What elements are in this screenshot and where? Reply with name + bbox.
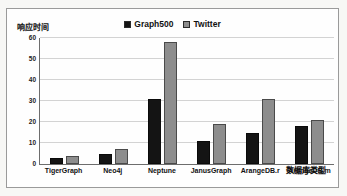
legend-item-twitter: Twitter xyxy=(183,19,220,29)
bar-series-container xyxy=(40,38,334,164)
y-axis-tick-label: 30 xyxy=(29,97,36,104)
bar-twitter-neptune xyxy=(164,42,177,164)
plot-area-wrapper: 0102030405060 xyxy=(39,38,334,165)
bar-graph500-arangedb-m xyxy=(295,126,308,164)
plot-area: 0102030405060 xyxy=(39,38,334,165)
bar-twitter-janusgraph xyxy=(213,124,226,164)
legend-label: Graph500 xyxy=(134,19,173,29)
bar-group xyxy=(285,38,334,164)
y-axis-title: 响应时间 xyxy=(17,21,49,32)
bar-twitter-arangedb-r xyxy=(262,99,275,164)
bar-graph500-tigergraph xyxy=(50,158,63,164)
chart-legend: Graph500Twitter xyxy=(7,19,338,29)
x-axis-tick-label: JanusGraph xyxy=(187,167,236,174)
x-axis-tick-label: Neo4j xyxy=(88,167,137,174)
legend-swatch-icon xyxy=(183,21,190,28)
y-axis-tick-label: 40 xyxy=(29,76,36,83)
y-axis-tick-label: 0 xyxy=(32,160,36,167)
chart-image: 响应时间 Graph500Twitter 0102030405060 Tiger… xyxy=(0,0,347,196)
y-axis-tick-label: 60 xyxy=(29,34,36,41)
bar-graph500-neptune xyxy=(148,99,161,164)
y-axis-tick-label: 10 xyxy=(29,139,36,146)
bar-graph500-arangedb-r xyxy=(246,133,259,165)
bar-twitter-tigergraph xyxy=(66,156,79,164)
bar-twitter-arangedb-m xyxy=(311,120,324,164)
x-axis-tick-label: ArangeDB.r xyxy=(236,167,285,174)
legend-item-graph500: Graph500 xyxy=(124,19,173,29)
bar-group xyxy=(89,38,138,164)
legend-swatch-icon xyxy=(124,21,131,28)
bar-group xyxy=(236,38,285,164)
x-axis-tick-label: Neptune xyxy=(137,167,186,174)
x-axis-title: 数据库类型 xyxy=(286,164,326,175)
bar-group xyxy=(40,38,89,164)
bar-graph500-janusgraph xyxy=(197,141,210,164)
bar-group xyxy=(138,38,187,164)
bar-graph500-neo4j xyxy=(99,154,112,165)
y-axis-tick-label: 50 xyxy=(29,55,36,62)
chart-frame: 响应时间 Graph500Twitter 0102030405060 Tiger… xyxy=(6,8,339,188)
bar-twitter-neo4j xyxy=(115,149,128,164)
legend-label: Twitter xyxy=(193,19,220,29)
y-axis-tick-label: 20 xyxy=(29,118,36,125)
bar-group xyxy=(187,38,236,164)
x-axis-tick-label: TigerGraph xyxy=(39,167,88,174)
